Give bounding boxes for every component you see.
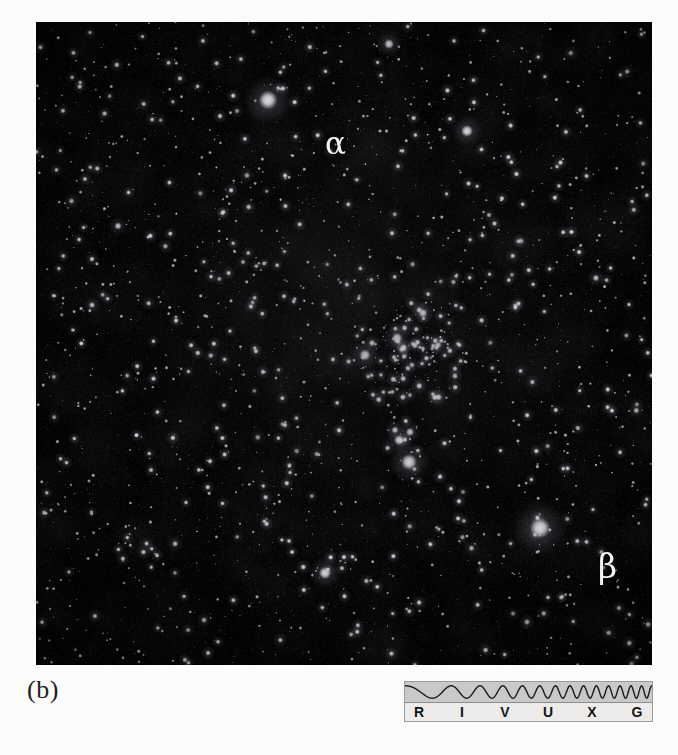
- band-label-radio: R: [411, 705, 427, 720]
- spectrum-wave-band: [405, 682, 652, 703]
- band-label-visible: V: [497, 705, 513, 720]
- band-label-infrared: I: [454, 705, 470, 720]
- star-field-photograph: α β: [36, 22, 652, 665]
- panel-letter: (b): [27, 675, 59, 705]
- star-label-alpha: α: [325, 128, 346, 159]
- figure-page: α β (b) R I V U X G: [0, 0, 678, 755]
- spectrum-key: R I V U X G: [404, 681, 653, 722]
- spectrum-waveform-icon: [405, 682, 652, 702]
- star-field-canvas: [36, 22, 652, 665]
- band-label-gamma: G: [629, 705, 645, 720]
- star-label-beta: β: [598, 550, 617, 583]
- band-label-xray: X: [584, 705, 600, 720]
- band-label-ultraviolet: U: [540, 705, 556, 720]
- spectrum-band-labels: R I V U X G: [405, 704, 652, 721]
